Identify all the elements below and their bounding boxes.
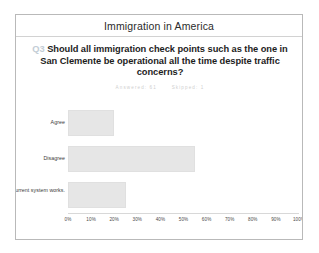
x-axis-tick-labels: 0%10%20%30%40%50%60%70%80%90%100% xyxy=(68,217,299,227)
x-tick-label: 60% xyxy=(202,217,212,222)
x-axis-line xyxy=(68,213,299,214)
question-block: Q3 Should all immigration check points s… xyxy=(30,44,290,90)
x-tick-label: 10% xyxy=(86,217,96,222)
x-tick-label: 0% xyxy=(65,217,72,222)
chart-row: Disagree xyxy=(16,145,303,173)
bar-disagree xyxy=(68,146,195,172)
x-tick-label: 50% xyxy=(179,217,189,222)
x-tick-label: 20% xyxy=(109,217,119,222)
slide-title: Immigration in America xyxy=(16,20,302,32)
x-tick-label: 30% xyxy=(133,217,143,222)
category-label: The current system works. xyxy=(15,187,65,194)
answered-count: Answered: 61 xyxy=(116,85,157,90)
x-tick-label: 90% xyxy=(271,217,281,222)
question-body: Should all immigration check points such… xyxy=(40,44,287,77)
category-label: Agree xyxy=(15,119,65,126)
x-tick-label: 40% xyxy=(156,217,166,222)
x-tick-label: 80% xyxy=(248,217,258,222)
chart-row: Agree xyxy=(16,109,303,137)
skipped-count: Skipped: 1 xyxy=(172,85,205,90)
category-label: Disagree xyxy=(15,155,65,162)
chart-row: The current system works. xyxy=(16,181,303,209)
question-text: Q3 Should all immigration check points s… xyxy=(30,44,290,79)
question-response-meta: Answered: 61 Skipped: 1 xyxy=(30,85,290,90)
bar-chart: Agree Disagree The current system works.… xyxy=(16,107,303,235)
title-divider xyxy=(16,36,302,37)
question-number: Q3 xyxy=(32,44,44,54)
presentation-slide: Immigration in America Q3 Should all imm… xyxy=(15,14,303,240)
bar-agree xyxy=(68,110,114,136)
x-tick-label: 70% xyxy=(225,217,235,222)
bar-current-system-works xyxy=(68,182,126,208)
x-tick-label: 100% xyxy=(293,217,303,222)
